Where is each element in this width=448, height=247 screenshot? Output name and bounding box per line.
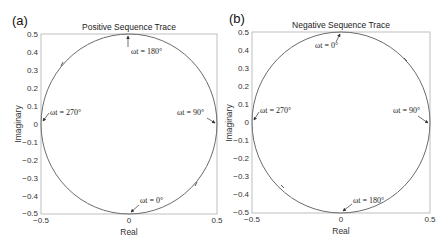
direction-marker	[281, 185, 284, 188]
chart-title-b: Negative Sequence Trace	[292, 20, 390, 30]
x-axis-b: −0.5 0 0.5	[244, 215, 436, 224]
y-tick: 0	[245, 118, 250, 127]
y-tick: −0.4	[22, 192, 38, 201]
x-tick: 0	[339, 215, 344, 224]
x-axis-a: −0.5 0 0.5	[33, 216, 223, 225]
annotation-180: ωt = 180°	[353, 196, 384, 205]
y-tick: 0	[34, 120, 39, 129]
x-tick: 0.5	[211, 216, 223, 225]
annotation-90: ωt = 90°	[393, 106, 420, 115]
chart-title-a: Positive Sequence Trace	[82, 22, 176, 32]
y-tick: 0.3	[27, 66, 39, 75]
axes-box-b	[252, 32, 430, 213]
axes-box-a	[41, 34, 217, 214]
annotation-270: ωt = 270°	[260, 106, 291, 115]
y-tick: −0.2	[22, 156, 38, 165]
y-tick: 0.3	[238, 64, 250, 73]
y-tick: 0.1	[27, 102, 39, 111]
annotation-270: ωt = 270°	[50, 108, 81, 117]
y-tick: 0.4	[238, 46, 250, 55]
y-tick: −0.1	[233, 136, 249, 145]
x-tick: 0	[127, 216, 132, 225]
y-tick: −0.4	[233, 190, 249, 199]
x-axis-label-b: Real	[332, 226, 350, 236]
y-axis-a: 0.5 0.4 0.3 0.2 0.1 0 −0.1 −0.2 −0.3 −0.…	[22, 30, 38, 218]
y-axis-label-a: Imaginary	[13, 105, 23, 143]
annotation-180: ωt = 180°	[131, 47, 162, 56]
y-tick: −0.3	[233, 172, 249, 181]
x-tick: 0.5	[424, 215, 436, 224]
x-tick: −0.5	[244, 215, 260, 224]
x-axis-label-a: Real	[120, 227, 138, 237]
y-tick: 0.2	[27, 84, 39, 93]
y-tick: 0.1	[238, 100, 250, 109]
trace-circle-a	[41, 34, 217, 214]
annotation-0: ωt = 0°	[140, 196, 163, 205]
y-axis-label-b: Imaginary	[224, 104, 234, 142]
y-tick: −0.3	[22, 174, 38, 183]
y-tick: 0.4	[27, 48, 39, 57]
y-tick: 0.5	[27, 30, 39, 39]
panel-label-a: (a)	[12, 13, 28, 28]
annotation-0: ωt = 0°	[315, 41, 338, 50]
panel-b: (b) Negative Sequence Trace 0.5 0.4 0.3 …	[224, 11, 436, 236]
annotation-90: ωt = 90°	[177, 108, 204, 117]
panel-a: (a) Positive Sequence Trace 0.5 0.4 0.3 …	[12, 13, 223, 237]
y-tick: −0.1	[22, 138, 38, 147]
trace-circle-b	[252, 32, 430, 213]
y-tick: 0.2	[238, 82, 250, 91]
panel-label-b: (b)	[229, 11, 245, 26]
y-tick: −0.2	[233, 154, 249, 163]
x-tick: −0.5	[33, 216, 49, 225]
figure: (a) Positive Sequence Trace 0.5 0.4 0.3 …	[0, 0, 448, 247]
y-tick: 0.5	[238, 28, 250, 37]
y-axis-b: 0.5 0.4 0.3 0.2 0.1 0 −0.1 −0.2 −0.3 −0.…	[233, 28, 249, 217]
